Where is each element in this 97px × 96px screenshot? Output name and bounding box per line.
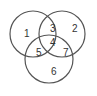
circle-right xyxy=(39,11,85,57)
venn-diagram: 1 2 3 4 5 6 7 xyxy=(0,0,97,96)
circle-left xyxy=(10,11,56,57)
region-7-label: 7 xyxy=(63,47,69,58)
region-6-label: 6 xyxy=(51,66,57,77)
circle-bottom xyxy=(25,35,73,83)
region-5-label: 5 xyxy=(36,47,42,58)
region-2-label: 2 xyxy=(72,23,78,34)
region-4-label: 4 xyxy=(50,37,56,48)
region-3-label: 3 xyxy=(50,23,56,34)
region-1-label: 1 xyxy=(24,28,30,39)
